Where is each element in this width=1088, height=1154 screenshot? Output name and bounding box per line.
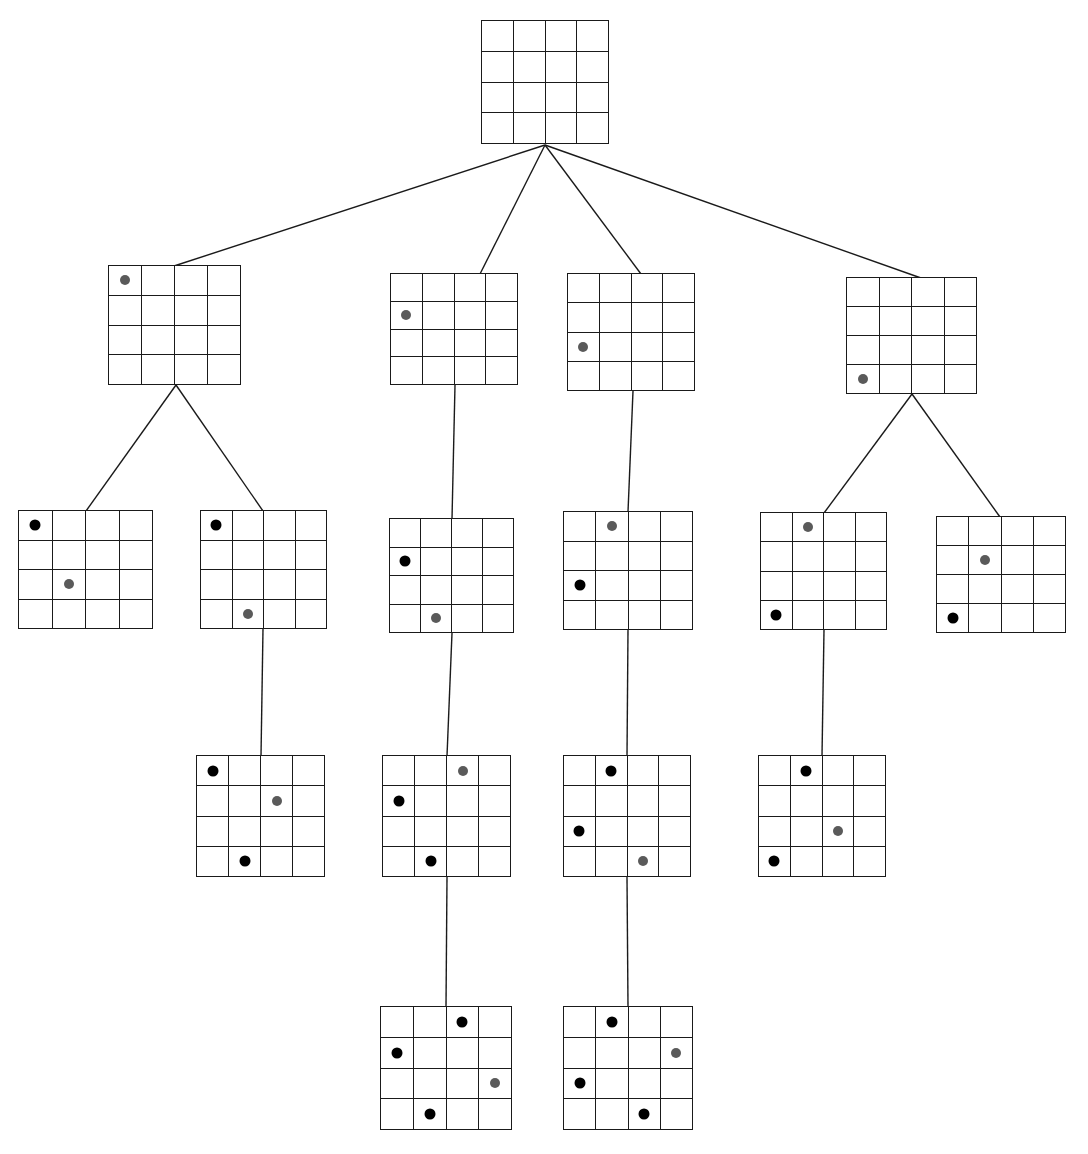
board-cell-r1c3[interactable] [912,278,945,307]
board-node-l2-a[interactable] [18,510,153,629]
board-cell-r4c4[interactable] [483,605,514,634]
board-cell-r4c2[interactable] [53,600,87,630]
board-cell-r1c1[interactable] [568,274,600,303]
board-node-l1-a[interactable] [108,265,241,385]
board-cell-r1c3[interactable] [628,756,660,786]
board-cell-r3c3[interactable] [175,326,208,356]
board-cell-r2c1[interactable] [19,541,53,571]
board-cell-r4c3[interactable] [264,600,296,630]
board-cell-r1c4[interactable] [945,278,978,307]
board-cell-r3c2[interactable] [421,576,452,605]
board-cell-r3c3[interactable] [264,570,296,600]
board-node-l2-c[interactable] [389,518,514,633]
board-cell-r3c1[interactable] [383,817,415,847]
board-cell-r2c4[interactable] [856,542,888,571]
board-cell-r2c3[interactable] [1002,546,1034,575]
board-cell-r1c1[interactable] [390,519,421,548]
board-cell-r1c3[interactable] [1002,517,1034,546]
board-cell-r2c4[interactable] [479,1038,512,1069]
board-cell-r3c1[interactable] [761,572,793,601]
board-cell-r2c4[interactable] [854,786,886,816]
board-cell-r3c4[interactable] [486,330,518,358]
board-cell-r3c4[interactable] [479,817,511,847]
board-cell-r4c1[interactable] [759,847,791,877]
board-cell-r3c2[interactable] [969,575,1001,604]
board-cell-r3c3[interactable] [629,571,661,601]
board-cell-r1c2[interactable] [596,512,628,542]
board-cell-r4c2[interactable] [596,847,628,877]
board-cell-r4c3[interactable] [629,601,661,631]
board-cell-r4c1[interactable] [381,1099,414,1130]
board-cell-r4c2[interactable] [142,355,175,385]
board-cell-r1c3[interactable] [452,519,483,548]
board-cell-r2c3[interactable] [628,786,660,816]
board-cell-r4c4[interactable] [856,601,888,630]
board-cell-r1c3[interactable] [447,756,479,786]
board-cell-r1c1[interactable] [937,517,969,546]
board-cell-r2c4[interactable] [483,548,514,577]
board-cell-r4c1[interactable] [109,355,142,385]
board-cell-r1c2[interactable] [596,756,628,786]
board-cell-r4c3[interactable] [629,1099,661,1130]
board-cell-r4c4[interactable] [663,362,695,391]
board-cell-r1c1[interactable] [109,266,142,296]
board-cell-r2c1[interactable] [564,1038,596,1069]
board-cell-r2c4[interactable] [661,1038,693,1069]
board-cell-r3c4[interactable] [483,576,514,605]
board-cell-r2c2[interactable] [793,542,825,571]
board-cell-r2c1[interactable] [390,548,421,577]
board-cell-r2c2[interactable] [414,1038,447,1069]
board-cell-r1c2[interactable] [793,513,825,542]
board-cell-r3c4[interactable] [208,326,241,356]
board-cell-r2c2[interactable] [423,302,455,330]
board-node-l2-e[interactable] [760,512,887,630]
board-cell-r1c4[interactable] [663,274,695,303]
board-cell-r4c3[interactable] [628,847,660,877]
board-cell-r2c1[interactable] [759,786,791,816]
board-cell-r3c4[interactable] [577,83,609,114]
board-cell-r2c4[interactable] [293,786,325,816]
board-cell-r4c4[interactable] [479,847,511,877]
board-cell-r1c2[interactable] [880,278,913,307]
board-cell-r4c3[interactable] [823,847,855,877]
board-cell-r1c2[interactable] [514,21,546,52]
board-cell-r3c2[interactable] [53,570,87,600]
board-cell-r4c4[interactable] [486,357,518,385]
board-cell-r3c3[interactable] [86,570,120,600]
board-cell-r2c2[interactable] [791,786,823,816]
board-cell-r1c1[interactable] [383,756,415,786]
board-cell-r4c4[interactable] [296,600,328,630]
board-node-l4-a[interactable] [380,1006,512,1130]
board-cell-r2c2[interactable] [880,307,913,336]
board-cell-r1c2[interactable] [596,1007,628,1038]
board-cell-r4c3[interactable] [824,601,856,630]
board-cell-r1c4[interactable] [661,512,693,542]
board-cell-r3c3[interactable] [452,576,483,605]
board-cell-r2c2[interactable] [600,303,632,332]
board-cell-r2c4[interactable] [208,296,241,326]
board-cell-r1c3[interactable] [632,274,664,303]
board-cell-r4c4[interactable] [479,1099,512,1130]
board-cell-r2c4[interactable] [945,307,978,336]
board-cell-r3c2[interactable] [596,571,628,601]
board-cell-r1c4[interactable] [296,511,328,541]
board-cell-r3c4[interactable] [293,817,325,847]
board-cell-r3c4[interactable] [661,1069,693,1100]
board-cell-r3c2[interactable] [415,817,447,847]
board-cell-r2c1[interactable] [761,542,793,571]
board-cell-r3c1[interactable] [201,570,233,600]
board-cell-r3c3[interactable] [629,1069,661,1100]
board-cell-r4c3[interactable] [261,847,293,877]
board-cell-r4c3[interactable] [455,357,487,385]
board-cell-r3c1[interactable] [847,336,880,365]
board-cell-r4c4[interactable] [577,113,609,144]
board-cell-r4c1[interactable] [19,600,53,630]
board-cell-r2c4[interactable] [296,541,328,571]
board-cell-r2c3[interactable] [629,1038,661,1069]
board-cell-r1c1[interactable] [564,1007,596,1038]
board-cell-r3c2[interactable] [600,333,632,362]
board-node-l3-b[interactable] [382,755,511,877]
board-cell-r1c4[interactable] [856,513,888,542]
board-cell-r1c3[interactable] [86,511,120,541]
board-cell-r3c4[interactable] [479,1069,512,1100]
